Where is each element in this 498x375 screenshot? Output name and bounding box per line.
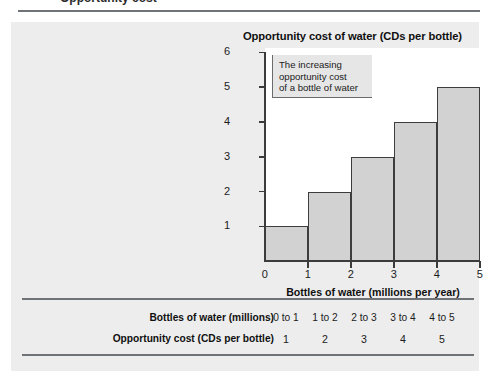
y-axis-tick-label: 6 bbox=[210, 45, 230, 57]
table-cell: 0 to 1 bbox=[266, 312, 306, 323]
x-axis-label: Bottles of water (millions per year) bbox=[265, 286, 481, 298]
annotation-line-2: opportunity cost bbox=[279, 71, 367, 83]
x-axis-tick bbox=[479, 261, 481, 268]
table-cell: 4 bbox=[383, 333, 423, 345]
x-axis-tick bbox=[307, 261, 309, 268]
y-axis-tick-label: 3 bbox=[210, 150, 230, 162]
x-axis-tick-label: 4 bbox=[427, 268, 447, 280]
table-cell: 2 bbox=[305, 333, 345, 345]
x-axis-tick-label: 1 bbox=[298, 268, 318, 280]
y-axis-tick bbox=[259, 226, 266, 228]
x-axis-tick-label: 2 bbox=[341, 268, 361, 280]
table-cell: 2 to 3 bbox=[344, 312, 384, 323]
y-axis-tick-label: 5 bbox=[210, 80, 230, 92]
table-cell: 4 to 5 bbox=[422, 312, 462, 323]
bar bbox=[308, 192, 351, 262]
y-axis-tick bbox=[259, 121, 266, 123]
header-divider-rule bbox=[18, 10, 480, 12]
x-axis-line bbox=[264, 261, 480, 263]
table-row: Opportunity cost (CDs per bottle) 1 2 3 … bbox=[22, 333, 474, 355]
data-table: Bottles of water (millions) 0 to 1 1 to … bbox=[22, 298, 484, 360]
bar bbox=[437, 87, 480, 261]
x-axis-tick-label: 3 bbox=[384, 268, 404, 280]
figure-panel: Opportunity cost of water (CDs per bottl… bbox=[11, 22, 479, 371]
bar bbox=[265, 226, 308, 261]
x-axis-tick bbox=[350, 261, 352, 268]
bar bbox=[351, 157, 394, 262]
table-top-rule bbox=[22, 298, 474, 300]
x-axis-tick-label: 5 bbox=[470, 268, 490, 280]
table-row-label: Opportunity cost (CDs per bottle) bbox=[113, 333, 274, 344]
y-axis-tick-label: 2 bbox=[210, 185, 230, 197]
table-row-label: Bottles of water (millions) bbox=[149, 312, 274, 323]
table-cell: 1 to 2 bbox=[305, 312, 345, 323]
table-cell: 3 to 4 bbox=[383, 312, 423, 323]
cropped-header-text: Opportunity cost bbox=[60, 0, 157, 5]
y-axis-tick bbox=[259, 156, 266, 158]
bar bbox=[394, 122, 437, 261]
y-axis-tick-label: 1 bbox=[210, 219, 230, 231]
x-axis-tick-label: 0 bbox=[255, 268, 275, 280]
annotation-line-1: The increasing bbox=[279, 59, 367, 71]
table-cell: 3 bbox=[344, 333, 384, 345]
y-axis-tick bbox=[259, 52, 266, 54]
y-axis-tick bbox=[259, 191, 266, 193]
table-cell: 1 bbox=[266, 333, 306, 345]
x-axis-tick bbox=[436, 261, 438, 268]
annotation-callout: The increasing opportunity cost of a bot… bbox=[272, 55, 372, 98]
bar-chart: Opportunity cost of water (CDs per bottl… bbox=[232, 27, 479, 302]
x-axis-tick bbox=[393, 261, 395, 268]
table-cell: 5 bbox=[422, 333, 462, 345]
y-axis-tick-label: 4 bbox=[210, 115, 230, 127]
y-axis-tick bbox=[259, 86, 266, 88]
annotation-line-3: of a bottle of water bbox=[279, 82, 367, 94]
table-row: Bottles of water (millions) 0 to 1 1 to … bbox=[22, 312, 474, 334]
chart-title: Opportunity cost of water (CDs per bottl… bbox=[243, 30, 462, 42]
